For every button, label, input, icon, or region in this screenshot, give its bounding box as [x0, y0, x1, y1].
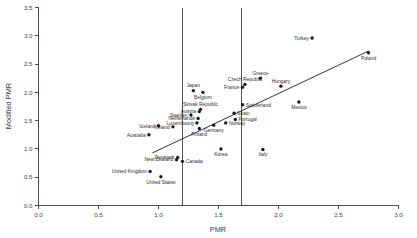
data-point-label: Iceland: [140, 124, 156, 129]
x-tick-label: 1.5: [214, 211, 223, 218]
data-point-label: Turkey: [294, 36, 309, 41]
data-point-label: Korea: [214, 152, 227, 157]
data-point: [175, 158, 178, 161]
data-point: [243, 83, 246, 86]
data-point-label: Spain: [237, 111, 250, 116]
y-axis-title: Modified PMR: [4, 83, 13, 129]
x-tick-label: 2.5: [334, 211, 343, 218]
data-point: [297, 100, 300, 103]
data-point: [148, 170, 151, 173]
data-point-label: Switzerland: [246, 103, 272, 108]
plot-canvas: 0.00.51.01.52.02.53.0 0.00.51.01.52.02.5…: [0, 0, 417, 238]
scatter-plot-figure: 0.00.51.01.52.02.53.0 0.00.51.01.52.02.5…: [0, 0, 417, 238]
data-point: [224, 121, 227, 124]
data-point: [212, 123, 215, 126]
data-point: [196, 117, 199, 120]
data-point: [232, 112, 235, 115]
data-point: [192, 89, 195, 92]
x-axis-title: PMR: [210, 225, 226, 234]
axis-spine: [39, 8, 399, 206]
x-tick-label: 0.0: [34, 211, 43, 218]
data-point: [159, 175, 162, 178]
data-point-label: Belgium: [194, 95, 212, 100]
data-point: [201, 91, 204, 94]
y-axis-ticks: 0.00.51.01.52.02.53.03.5: [24, 4, 39, 209]
y-tick-label: 3.5: [24, 4, 33, 11]
data-point-label: Italy: [258, 152, 268, 157]
y-tick-label: 1.0: [24, 145, 33, 152]
data-point-label: United States: [146, 180, 176, 185]
data-point: [198, 127, 201, 130]
data-point: [241, 86, 244, 89]
data-point: [198, 110, 201, 113]
data-point: [261, 148, 264, 151]
data-point: [195, 121, 198, 124]
y-tick-label: 2.0: [24, 89, 33, 96]
data-point-label: United Kingdom: [112, 169, 147, 174]
data-point: [367, 51, 370, 54]
data-point-label: Australia: [127, 133, 146, 138]
y-tick-label: 3.0: [24, 32, 33, 39]
y-tick-label: 2.5: [24, 60, 33, 67]
x-tick-label: 3.0: [394, 211, 403, 218]
data-point: [241, 103, 244, 106]
data-point-labels: TurkeyPolandGreeceCzech RepublicHungaryF…: [112, 36, 376, 185]
data-point: [279, 84, 282, 87]
data-point-label: Czech Republic: [228, 77, 263, 82]
axis-group: [39, 8, 399, 206]
x-tick-label: 0.5: [94, 211, 103, 218]
data-point: [219, 147, 222, 150]
data-point-label: Japan: [187, 83, 201, 88]
data-point: [147, 133, 150, 136]
x-axis-ticks: 0.00.51.01.52.02.53.0: [34, 206, 403, 218]
data-point-label: Slovak Republic: [183, 102, 219, 107]
x-tick-label: 1.0: [154, 211, 163, 218]
data-point-label: Canada: [186, 159, 203, 164]
y-tick-label: 0.0: [24, 202, 33, 209]
x-tick-label: 2.0: [274, 211, 283, 218]
data-point-label: France: [224, 85, 240, 90]
data-point-label: Norway: [229, 121, 246, 126]
y-tick-label: 0.5: [24, 173, 33, 180]
data-point-label: New Zealand: [144, 157, 173, 162]
data-point-label: Finland: [191, 132, 207, 137]
data-point-label: Luxembourg: [167, 121, 194, 126]
data-point: [181, 160, 184, 163]
data-point-label: Ireland: [155, 125, 170, 130]
y-tick-label: 1.5: [24, 117, 33, 124]
data-point-label: Greece: [252, 71, 268, 76]
data-point-label: Poland: [361, 56, 377, 61]
data-point: [310, 36, 313, 39]
data-point-label: Hungary: [272, 79, 291, 84]
data-point-label: Mexico: [291, 105, 307, 110]
